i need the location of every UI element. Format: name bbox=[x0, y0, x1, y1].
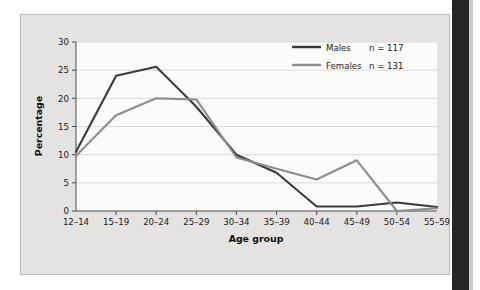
x-tick-label-4: 30–34 bbox=[223, 217, 249, 227]
y-tick-label-30: 30 bbox=[58, 37, 69, 47]
y-tick-label-10: 10 bbox=[58, 150, 69, 160]
book-binding-edge bbox=[469, 0, 473, 290]
x-tick-label-3: 25–29 bbox=[183, 217, 209, 227]
x-tick-label-6: 40–44 bbox=[304, 217, 330, 227]
x-tick-label-2: 20–24 bbox=[143, 217, 169, 227]
y-axis-title: Percentage bbox=[33, 96, 44, 156]
x-tick-label-1: 15–19 bbox=[103, 217, 129, 227]
figure-root: 051015202530 12–1415–1920–2425–2930–3435… bbox=[0, 0, 480, 290]
legend-n-males: n = 117 bbox=[369, 43, 404, 53]
age-group-percentage-line-chart: 051015202530 12–1415–1920–2425–2930–3435… bbox=[20, 14, 450, 275]
y-tick-label-15: 15 bbox=[58, 122, 69, 132]
legend-label-males: Males bbox=[326, 43, 351, 53]
x-tick-label-8: 50–54 bbox=[384, 217, 410, 227]
y-tick-label-5: 5 bbox=[64, 178, 69, 188]
x-axis-ticks: 12–1415–1920–2425–2930–3435–3940–4445–49… bbox=[63, 211, 450, 227]
x-tick-label-9: 55–59 bbox=[424, 217, 450, 227]
x-tick-label-0: 12–14 bbox=[63, 217, 89, 227]
legend-n-females: n = 131 bbox=[369, 61, 404, 71]
legend-label-females: Females bbox=[326, 61, 362, 71]
book-binding-shadow bbox=[452, 0, 469, 290]
y-tick-label-0: 0 bbox=[64, 206, 69, 216]
y-tick-label-20: 20 bbox=[58, 94, 69, 104]
x-axis-title: Age group bbox=[229, 233, 284, 244]
y-axis-ticks: 051015202530 bbox=[58, 37, 76, 216]
x-tick-label-5: 35–39 bbox=[263, 217, 289, 227]
y-tick-label-25: 25 bbox=[58, 65, 69, 75]
x-tick-label-7: 45–49 bbox=[344, 217, 370, 227]
